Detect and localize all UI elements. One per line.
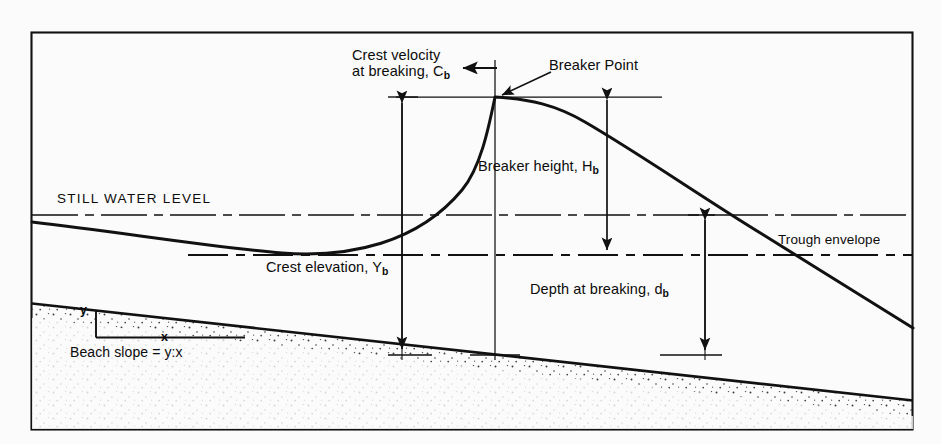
wave-breaking-diagram [0,0,941,444]
breaker-height-label: Breaker height, Hb [478,158,599,174]
beach-region [32,304,913,430]
beach-slope-label: Beach slope = y:x [70,345,183,361]
slope-run-label: x [161,330,168,344]
dimension-crest-elevation-Yb [388,97,432,355]
dimension-depth-at-breaking-db [660,215,722,355]
trough-envelope-label: Trough envelope [778,232,880,247]
crest-velocity-label: Crest velocity at breaking, Cb [352,47,450,79]
crest-elevation-label: Crest elevation, Yb [266,259,388,275]
breaker-point-leader [502,72,551,95]
crest-velocity-line2: at breaking, Cb [352,63,450,79]
wave-surface-profile [32,97,913,328]
crest-velocity-line1: Crest velocity [352,47,450,63]
figure-canvas: Crest velocity at breaking, Cb Breaker P… [0,0,941,444]
slope-rise-label: y [80,303,87,317]
depth-at-breaking-label: Depth at breaking, db [530,281,669,297]
still-water-level-label: STILL WATER LEVEL [57,191,211,206]
breaker-point-label: Breaker Point [549,57,638,73]
